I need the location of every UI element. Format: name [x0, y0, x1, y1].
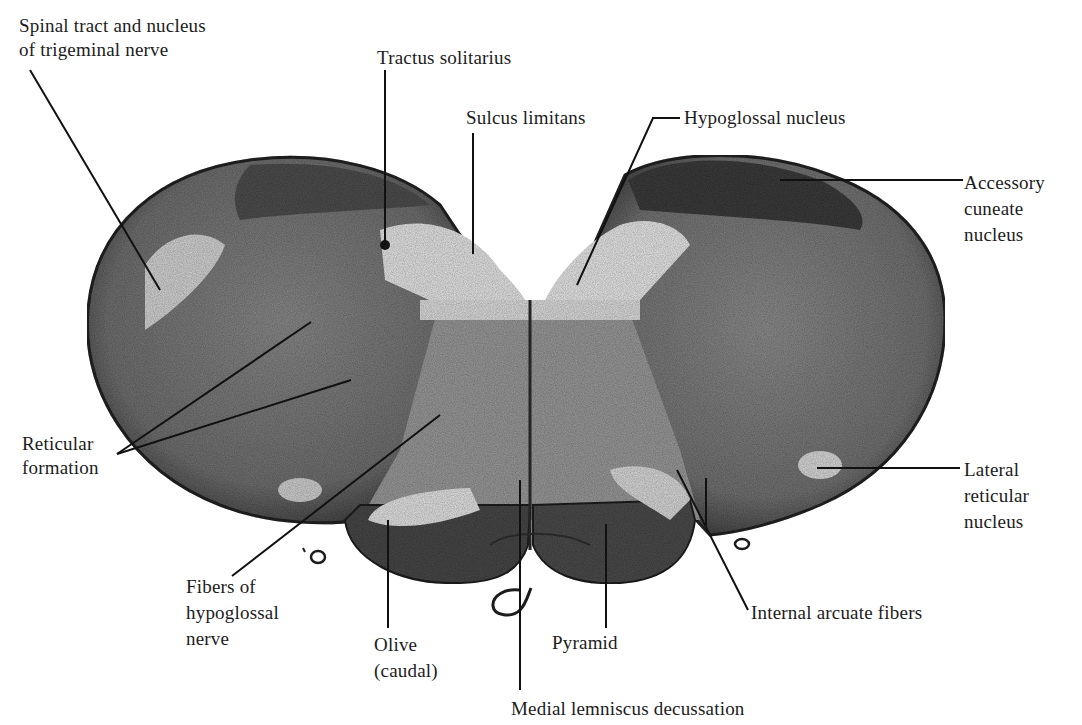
label-sulcus-limitans: Sulcus limitans — [466, 106, 586, 130]
label-spinal-trigeminal: Spinal tract and nucleus of trigeminal n… — [19, 14, 206, 62]
label-internal-arcuate: Internal arcuate fibers — [751, 601, 922, 625]
label-reticular-formation: Reticular formation — [22, 432, 99, 480]
leader-spinal-trigeminal — [30, 70, 160, 290]
label-hypoglossal-nucleus: Hypoglossal nucleus — [684, 106, 846, 130]
label-medial-lemniscus: Medial lemniscus decussation — [511, 697, 745, 721]
tissue-section — [87, 155, 945, 583]
label-accessory-cuneate: Accessory cuneate nucleus — [964, 170, 1045, 248]
label-fibers-hypoglossal: Fibers of hypoglossal nerve — [186, 574, 279, 652]
label-lateral-reticular: Lateral reticular nucleus — [964, 457, 1029, 535]
label-olive: Olive (caudal) — [374, 632, 438, 684]
label-pyramid: Pyramid — [552, 631, 618, 655]
label-tractus-solitarius: Tractus solitarius — [377, 46, 511, 70]
